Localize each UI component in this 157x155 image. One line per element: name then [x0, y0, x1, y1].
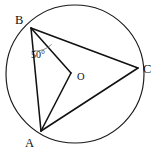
label-angle-50-degrees: 50° — [31, 49, 45, 60]
label-point-c: C — [143, 62, 151, 76]
label-point-a: A — [25, 136, 34, 150]
geometry-diagram: B C A O 50° — [0, 0, 157, 155]
label-point-b: B — [15, 13, 23, 27]
circle-outline — [6, 5, 144, 143]
circle-geometry-figure: B C A O 50° — [0, 0, 157, 155]
label-center-o: O — [77, 71, 85, 82]
segment-ba — [31, 28, 41, 131]
segment-oa — [41, 73, 71, 131]
segment-ac — [41, 68, 138, 131]
